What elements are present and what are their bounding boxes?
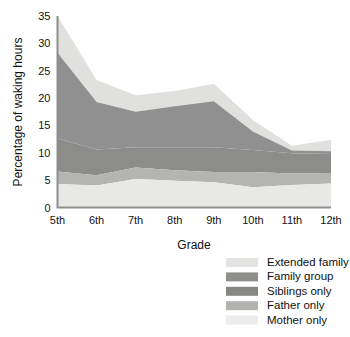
- chart-legend: Extended familyFamily groupSiblings only…: [226, 256, 349, 326]
- x-tick-label-8th: 8th: [167, 214, 182, 226]
- legend-label-extended-family: Extended family: [267, 256, 349, 268]
- legend-swatch-mother-only: [226, 316, 258, 325]
- legend-label-siblings-only: Siblings only: [267, 285, 332, 297]
- x-tick-label-11th: 11th: [282, 214, 303, 226]
- chart-container: 05101520253035 5th6th7th8th9th10th11th12…: [0, 0, 350, 337]
- y-tick-label: 5: [44, 174, 50, 186]
- x-tick-label-5th: 5th: [50, 214, 65, 226]
- stacked-area-chart: 05101520253035 5th6th7th8th9th10th11th12…: [0, 0, 350, 337]
- y-tick-label: 25: [38, 65, 50, 77]
- x-axis-title: Grade: [177, 238, 211, 252]
- y-tick-label: 35: [38, 10, 50, 22]
- y-axis-tick-labels: 05101520253035: [38, 10, 50, 214]
- y-tick-label: 0: [44, 202, 50, 214]
- x-tick-label-12th: 12th: [320, 214, 341, 226]
- y-tick-label: 15: [38, 119, 50, 131]
- legend-swatch-family-group: [226, 272, 258, 281]
- x-axis-tick-labels: 5th6th7th8th9th10th11th12th: [50, 214, 342, 226]
- x-tick-label-7th: 7th: [128, 214, 143, 226]
- y-tick-label: 10: [38, 147, 50, 159]
- legend-label-mother-only: Mother only: [267, 314, 327, 326]
- legend-swatch-siblings-only: [226, 287, 258, 296]
- x-tick-label-9th: 9th: [206, 214, 221, 226]
- legend-label-family-group: Family group: [267, 270, 333, 282]
- y-tick-label: 30: [38, 37, 50, 49]
- y-axis-title: Percentage of waking hours: [11, 38, 25, 187]
- legend-label-father-only: Father only: [267, 299, 325, 311]
- x-tick-label-6th: 6th: [89, 214, 104, 226]
- legend-swatch-father-only: [226, 301, 258, 310]
- x-tick-label-10th: 10th: [242, 214, 263, 226]
- y-tick-label: 20: [38, 92, 50, 104]
- legend-swatch-extended-family: [226, 258, 258, 267]
